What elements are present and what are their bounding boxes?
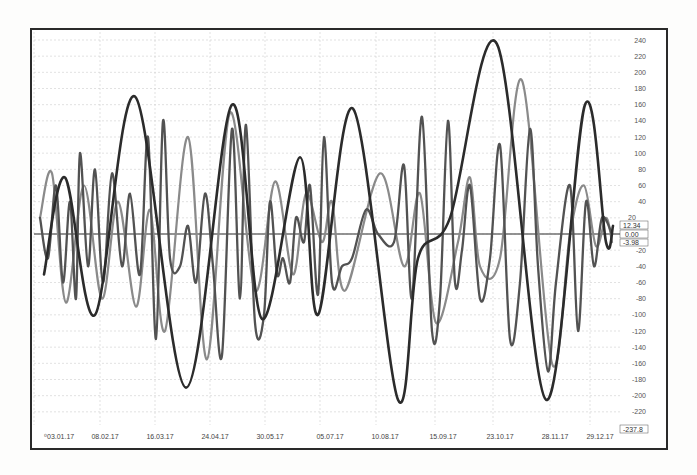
- y-tick-label: -120: [632, 328, 646, 335]
- y-tick-label: -20: [636, 247, 646, 254]
- last-value-3: -3.98: [623, 239, 639, 246]
- y-tick-label: 140: [634, 117, 646, 124]
- y-tick-label: -80: [636, 295, 646, 302]
- y-tick-label: 240: [634, 37, 646, 44]
- y-tick-label: -100: [632, 311, 646, 318]
- y-tick-label: 80: [638, 166, 646, 173]
- last-value-2: 0.00: [625, 231, 639, 238]
- y-tick-label: 160: [634, 101, 646, 108]
- line-chart: 24022020018016014012010080604020-20-40-6…: [0, 0, 697, 475]
- x-tick-label: 08.02.17: [91, 433, 118, 440]
- x-tick-label: 10.08.17: [371, 433, 398, 440]
- y-axis-bottom-box: -237.8: [620, 425, 648, 433]
- x-tick-label: 23.10.17: [486, 433, 513, 440]
- y-tick-label: -200: [632, 392, 646, 399]
- x-tick-label: 24.04.17: [201, 433, 228, 440]
- last-value-boxes: 12.34 0.00 -3.98: [620, 221, 648, 246]
- x-axis: ⁰03.01.1708.02.1716.03.1724.04.1730.05.1…: [44, 433, 614, 440]
- x-tick-label: ⁰03.01.17: [44, 433, 74, 440]
- y-axis-bottom-label: -237.8: [623, 426, 643, 433]
- y-tick-label: 180: [634, 85, 646, 92]
- y-tick-label: -160: [632, 360, 646, 367]
- y-tick-label: 60: [638, 182, 646, 189]
- y-tick-label: -60: [636, 279, 646, 286]
- y-tick-label: 40: [638, 198, 646, 205]
- y-tick-label: 20: [628, 214, 636, 221]
- y-tick-label: 120: [634, 134, 646, 141]
- x-tick-label: 30.05.17: [256, 433, 283, 440]
- x-tick-label: 28.11.17: [542, 433, 569, 440]
- x-tick-label: 05.07.17: [316, 433, 343, 440]
- last-value-1: 12.34: [623, 222, 641, 229]
- y-tick-label: -140: [632, 344, 646, 351]
- series-lines: [40, 40, 613, 402]
- y-tick-label: -40: [636, 263, 646, 270]
- x-tick-label: 15.09.17: [429, 433, 456, 440]
- y-tick-label: -180: [632, 376, 646, 383]
- series-3-hf-line: [40, 117, 612, 372]
- y-tick-label: 200: [634, 69, 646, 76]
- x-tick-label: 16.03.17: [146, 433, 173, 440]
- y-tick-label: 220: [634, 53, 646, 60]
- y-tick-label: -220: [632, 408, 646, 415]
- x-tick-label: 29.12.17: [586, 433, 613, 440]
- y-tick-label: 100: [634, 150, 646, 157]
